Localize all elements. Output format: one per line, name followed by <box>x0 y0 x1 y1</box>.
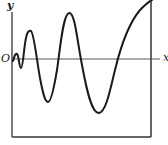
origin-label: O <box>1 53 10 64</box>
function-diagram: y O x <box>0 0 168 145</box>
x-axis-label: x <box>163 52 168 63</box>
plot-svg <box>0 0 168 145</box>
oscillating-curve <box>13 0 152 113</box>
y-axis-label: y <box>7 0 13 11</box>
